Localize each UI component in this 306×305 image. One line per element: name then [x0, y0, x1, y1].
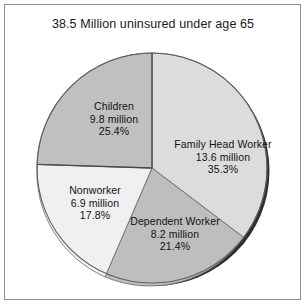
pie-label-family-head-worker: Family Head Worker 13.6 million 35.3% — [150, 138, 296, 176]
pie-label-children: Children 9.8 million 25.4% — [62, 100, 166, 138]
pie-label-value: 9.8 million — [62, 113, 166, 126]
pie-label-name: Dependent Worker — [108, 215, 242, 228]
pie-label-value: 6.9 million — [40, 197, 150, 210]
pie-chart-figure: 38.5 Million uninsured under age 65 Fami… — [0, 0, 306, 305]
pie-label-percent: 21.4% — [108, 240, 242, 253]
pie-label-name: Family Head Worker — [150, 138, 296, 151]
pie-label-value: 13.6 million — [150, 151, 296, 164]
pie-label-name: Nonworker — [40, 184, 150, 197]
pie-label-percent: 25.4% — [62, 125, 166, 138]
pie-label-value: 8.2 million — [108, 228, 242, 241]
pie-label-name: Children — [62, 100, 166, 113]
pie-label-dependent-worker: Dependent Worker 8.2 million 21.4% — [108, 215, 242, 253]
pie-label-percent: 35.3% — [150, 163, 296, 176]
